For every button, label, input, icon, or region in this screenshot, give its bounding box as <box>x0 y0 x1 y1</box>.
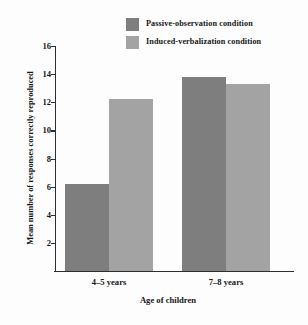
y-axis-line <box>55 46 56 271</box>
bar <box>226 84 270 271</box>
bar <box>65 184 109 271</box>
y-tick-label: 6 <box>47 182 51 191</box>
chart-legend: Passive-observation condition Induced-ve… <box>126 18 261 49</box>
y-tick-label: 4 <box>47 210 51 219</box>
y-tick-mark <box>51 159 55 160</box>
bar-chart-figure: Passive-observation condition Induced-ve… <box>0 0 308 325</box>
category-label: 7–8 years <box>209 277 244 287</box>
legend-swatch-passive-observation-icon <box>126 18 139 31</box>
y-tick-label: 16 <box>42 42 51 51</box>
y-tick-mark <box>51 243 55 244</box>
y-tick-mark <box>51 74 55 75</box>
y-tick-label: 2 <box>47 239 51 248</box>
plot-area: 246810121416 4–5 years7–8 years Mean num… <box>55 46 282 271</box>
y-tick-label: 14 <box>42 70 51 79</box>
y-tick-mark <box>51 130 55 131</box>
category-label: 4–5 years <box>92 277 127 287</box>
bar <box>182 77 226 271</box>
y-tick-mark <box>51 215 55 216</box>
y-tick-mark <box>51 46 55 47</box>
legend-item-passive-observation: Passive-observation condition <box>126 18 261 31</box>
y-tick-mark <box>51 102 55 103</box>
bar <box>109 99 153 271</box>
y-tick-label: 8 <box>47 154 51 163</box>
legend-label-passive-observation: Passive-observation condition <box>146 20 253 28</box>
y-tick-label: 10 <box>42 126 51 135</box>
y-axis-title: Mean number of responses correctly repro… <box>26 71 35 244</box>
x-axis-line <box>54 271 294 272</box>
x-axis-title: Age of children <box>140 295 196 305</box>
y-tick-mark <box>51 187 55 188</box>
y-tick-label: 12 <box>42 98 51 107</box>
